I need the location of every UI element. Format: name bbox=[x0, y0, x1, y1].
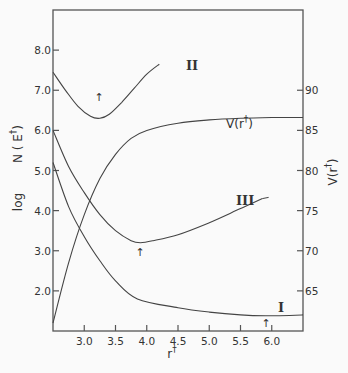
y-tick-label: 2.0 bbox=[34, 285, 51, 297]
curve-label-III-leader bbox=[262, 197, 268, 198]
svg-text:r†: r† bbox=[167, 344, 177, 361]
chart: 3.03.54.04.55.05.56.0 2.03.04.05.06.07.0… bbox=[0, 0, 348, 373]
svg-text:log: log bbox=[11, 193, 25, 211]
x-tick-label: 5.0 bbox=[201, 335, 218, 347]
x-tick-label: 3.0 bbox=[76, 335, 93, 347]
minimum-arrow-III: ↑ bbox=[135, 246, 144, 259]
x-axis-title: r† bbox=[167, 344, 177, 361]
y-axis-right-ticks: 657075808590 bbox=[297, 84, 318, 297]
curve-i bbox=[53, 163, 303, 316]
x-tick-label: 6.0 bbox=[263, 335, 280, 347]
y-axis-right-title: V(r†) bbox=[323, 158, 340, 185]
y2-tick-label: 80 bbox=[305, 165, 318, 177]
y-tick-label: 4.0 bbox=[34, 205, 51, 217]
svg-text:N ( E†): N ( E†) bbox=[8, 125, 25, 163]
minimum-arrow-II: ↑ bbox=[94, 91, 103, 104]
minimum-arrow-I: ↑ bbox=[261, 317, 270, 330]
curve-label-III: III bbox=[236, 193, 254, 208]
y-tick-label: 6.0 bbox=[34, 124, 51, 136]
x-tick-label: 3.5 bbox=[107, 335, 124, 347]
curve-iii bbox=[53, 130, 262, 242]
y2-tick-label: 70 bbox=[305, 245, 318, 257]
curve-ii bbox=[53, 64, 159, 118]
svg-text:V(r†): V(r†) bbox=[323, 158, 340, 185]
y2-tick-label: 65 bbox=[305, 285, 318, 297]
y2-tick-label: 75 bbox=[305, 205, 318, 217]
curve-label-I: I bbox=[278, 300, 284, 315]
curve-vr bbox=[53, 117, 303, 323]
y-tick-label: 5.0 bbox=[34, 165, 51, 177]
plot-frame bbox=[53, 10, 303, 331]
curves bbox=[53, 64, 303, 323]
y-tick-label: 8.0 bbox=[34, 44, 51, 56]
y2-tick-label: 85 bbox=[305, 124, 318, 136]
y2-tick-label: 90 bbox=[305, 84, 318, 96]
x-tick-label: 5.5 bbox=[232, 335, 249, 347]
curve-label-V: V(r†) bbox=[226, 114, 253, 131]
y-axis-left-title: log N ( E†) bbox=[8, 125, 25, 211]
y-tick-label: 7.0 bbox=[34, 84, 51, 96]
x-axis-ticks: 3.03.54.04.55.05.56.0 bbox=[76, 325, 280, 347]
x-tick-label: 4.0 bbox=[138, 335, 155, 347]
curve-label-II: II bbox=[186, 58, 198, 73]
y-tick-label: 3.0 bbox=[34, 245, 51, 257]
